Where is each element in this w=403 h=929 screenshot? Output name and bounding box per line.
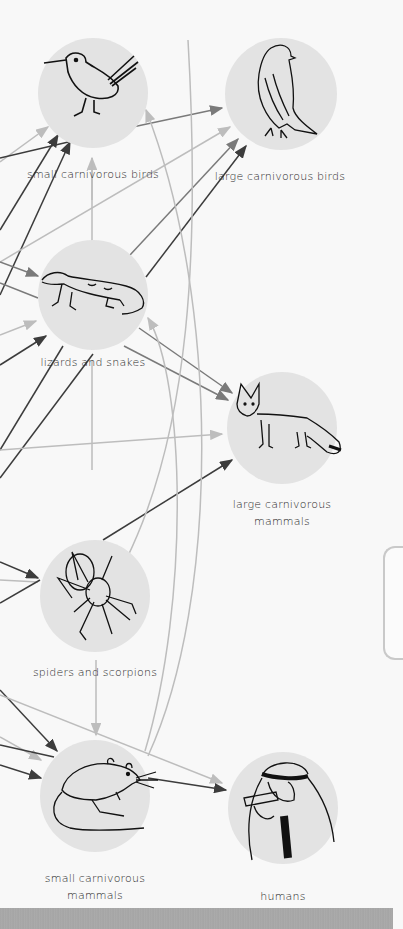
node-small-carnivorous-birds: small carnivorous birds [38, 38, 148, 148]
bottom-bar [0, 908, 393, 929]
node-label: lizards and snakes [18, 354, 168, 371]
lizard-icon [38, 240, 150, 350]
spider-icon [40, 540, 150, 652]
side-panel-handle[interactable] [383, 546, 403, 660]
node-label: large carnivorous mammals [207, 496, 357, 530]
node-label: humans [208, 888, 358, 905]
fox-icon [227, 372, 367, 484]
node-label: large carnivorous birds [195, 168, 365, 185]
human-eating-icon [228, 752, 338, 864]
node-large-carnivorous-birds: large carnivorous birds [225, 38, 337, 150]
node-humans: humans [228, 752, 338, 864]
node-label: small carnivorous mammals [20, 870, 170, 904]
roadrunner-bird-icon [38, 38, 148, 148]
node-label: spiders and scorpions [20, 664, 170, 681]
node-label: small carnivorous birds [18, 166, 168, 183]
node-spiders-and-scorpions: spiders and scorpions [40, 540, 150, 652]
jerboa-rodent-icon [40, 740, 170, 852]
node-lizards-and-snakes: lizards and snakes [38, 240, 148, 350]
falcon-icon [225, 38, 337, 150]
node-small-carnivorous-mammals: small carnivorous mammals [40, 740, 150, 852]
node-large-carnivorous-mammals: large carnivorous mammals [227, 372, 337, 484]
